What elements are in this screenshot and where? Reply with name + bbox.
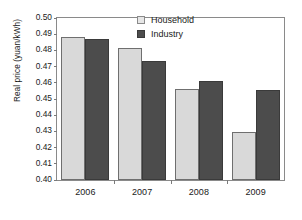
x-tick-mark [114,180,115,184]
y-tick-mark [54,131,57,132]
plot-area: 0.400.410.420.430.440.450.460.470.480.49… [56,17,285,181]
y-tick-mark [54,34,57,35]
y-tick-mark [54,180,57,181]
y-tick-mark [54,66,57,67]
y-tick-mark [54,99,57,100]
y-tick-label: 0.46 [36,77,52,88]
x-tick-label-2009: 2009 [246,187,266,197]
x-tick-label-2006: 2006 [75,187,95,197]
legend-label: Industry [151,27,183,41]
x-tick-mark [171,180,172,184]
x-tick-label-2008: 2008 [189,187,209,197]
y-tick-mark [54,82,57,83]
x-tick-mark [227,180,228,184]
y-axis-title: Real price (yuan/kWh) [13,0,22,136]
legend-label: Household [151,13,194,27]
legend-item-household[interactable]: Household [137,13,194,27]
y-tick-mark [54,163,57,164]
y-tick-mark [54,50,57,51]
y-tick-label: 0.41 [36,158,52,169]
y-tick-mark [54,115,57,116]
legend-swatch-household-icon [137,16,145,24]
chart-figure: Real price (yuan/kWh) 0.400.410.420.430.… [0,0,302,220]
y-tick-label: 0.44 [36,109,52,120]
y-tick-label: 0.49 [36,28,52,39]
y-tick-label: 0.43 [36,125,52,136]
bar-household-2006 [61,37,85,180]
bar-household-2008 [175,89,199,180]
legend-item-industry[interactable]: Industry [137,27,194,41]
y-tick-label: 0.50 [36,12,52,23]
chart-legend: HouseholdIndustry [137,13,194,41]
legend-swatch-industry-icon [137,30,145,38]
bar-industry-2008 [199,81,223,180]
y-tick-label: 0.45 [36,93,52,104]
bar-industry-2006 [85,39,109,180]
y-tick-mark [54,18,57,19]
bar-household-2007 [118,48,142,180]
y-tick-label: 0.47 [36,61,52,72]
bar-industry-2007 [142,61,166,180]
y-tick-label: 0.48 [36,44,52,55]
bar-household-2009 [232,132,256,180]
bar-industry-2009 [256,90,280,180]
y-tick-label: 0.42 [36,142,52,153]
y-tick-label: 0.40 [36,174,52,185]
x-tick-label-2007: 2007 [132,187,152,197]
y-tick-mark [54,147,57,148]
